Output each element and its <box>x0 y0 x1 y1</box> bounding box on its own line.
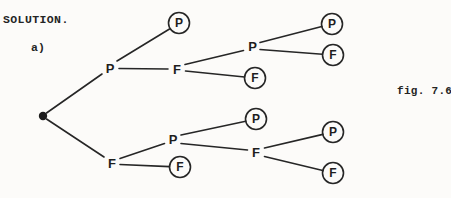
tree-edge-root-to-F1 <box>47 119 105 157</box>
tree-edge-F3-to-leafF <box>265 157 323 171</box>
tree-edge-F2-to-leafF <box>186 71 245 77</box>
leaf-node-label: P <box>328 17 336 31</box>
leaf-node-label: F <box>329 166 336 180</box>
branch-node-label: F <box>108 156 116 171</box>
branch-node-label: F <box>252 145 260 160</box>
branch-node-label: P <box>106 61 115 76</box>
tree-edge-P1-to-F2 <box>119 69 168 70</box>
leaf-node-label: F <box>176 160 183 174</box>
leaf-node-label: F <box>329 48 336 62</box>
tree-diagram: P F P F P F P P F F P P F F <box>0 0 451 198</box>
tree-edge-root-to-P1 <box>47 74 103 113</box>
branch-node-label: F <box>173 62 181 77</box>
scanned-textbook-figure: SOLUTION. a) fig. 7.6 P F P F P F P P <box>0 0 451 198</box>
leaf-node-label: F <box>251 71 258 85</box>
tree-edge-F1-to-leafF <box>120 165 170 167</box>
tree-edge-F1-to-P2 <box>120 144 165 159</box>
tree-edge-P3-to-leafF <box>260 50 323 55</box>
tree-edge-P1-to-leafP <box>117 29 170 61</box>
tree-root-dot <box>39 112 47 120</box>
leaf-node-label: P <box>329 125 337 139</box>
tree-edge-P2-to-F3 <box>181 144 248 151</box>
branch-node-label: P <box>169 132 178 147</box>
tree-edge-F3-to-leafP <box>265 134 323 148</box>
tree-edge-P3-to-leafP <box>260 27 322 43</box>
leaf-node-label: P <box>252 112 260 126</box>
branch-node-label: P <box>248 39 257 54</box>
tree-edge-P2-to-leafP <box>181 121 246 135</box>
tree-edge-F2-to-P3 <box>185 51 244 65</box>
leaf-node-label: P <box>175 16 183 30</box>
